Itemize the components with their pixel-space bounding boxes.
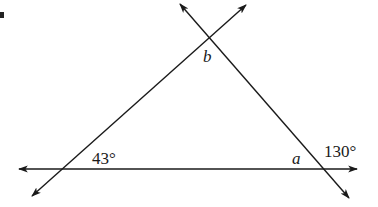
diagram-lines: [0, 0, 378, 207]
angle-label-a: a: [292, 150, 301, 167]
angle-label-43: 43°: [92, 150, 116, 167]
left-slanted-line: [32, 5, 246, 196]
angle-label-130: 130°: [324, 143, 356, 160]
triangle-diagram: b 43° a 130°: [0, 0, 378, 207]
vertex-label-b: b: [203, 48, 212, 65]
